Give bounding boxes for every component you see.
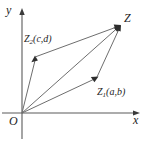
origin-label: O bbox=[9, 115, 18, 127]
complex-plane-parallelogram-figure: y x O Z2(c,d) Z1(a,b) Z bbox=[0, 0, 149, 143]
point-label-z2-coords: (c,d) bbox=[33, 33, 52, 44]
y-axis-label: y bbox=[6, 4, 11, 16]
point-label-z: Z bbox=[124, 12, 131, 24]
vector-o-to-z1 bbox=[22, 79, 96, 114]
vector-o-to-z1-arrowhead bbox=[91, 77, 99, 83]
point-label-z2: Z2(c,d) bbox=[24, 34, 52, 46]
x-axis-label: x bbox=[133, 114, 138, 126]
y-axis-arrowhead bbox=[19, 8, 24, 15]
edge-z1-to-z bbox=[97, 28, 120, 77]
vector-o-to-z2 bbox=[22, 59, 36, 114]
point-label-z1: Z1(a,b) bbox=[97, 87, 125, 99]
point-label-z1-coords: (a,b) bbox=[106, 86, 125, 97]
